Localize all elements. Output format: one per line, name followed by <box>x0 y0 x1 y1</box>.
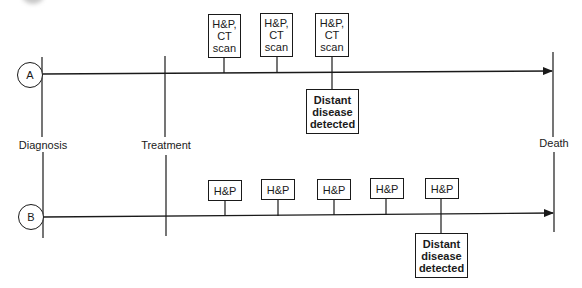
event-box-a: Distantdiseasedetected <box>306 89 359 134</box>
timeline-a-label: A <box>26 69 33 81</box>
box-line: H&P, <box>264 17 288 29</box>
followup-box-b5: H&P <box>425 178 459 199</box>
box-line: H&P <box>323 184 346 196</box>
followup-box-b4: H&P <box>370 178 404 199</box>
followup-box-b3: H&P <box>317 179 351 200</box>
box-line: CT <box>325 29 340 41</box>
event-box-b: Distantdiseasedetected <box>415 233 468 278</box>
timeline-b-label: B <box>27 211 34 223</box>
box-line: scan <box>265 41 288 53</box>
followup-box-a3: H&P,CTscan <box>315 13 349 57</box>
box-line: H&P <box>214 185 237 197</box>
box-line: CT <box>269 29 284 41</box>
followup-box-b1: H&P <box>208 180 242 201</box>
box-line: H&P, <box>320 17 344 29</box>
box-line: scan <box>213 42 236 54</box>
box-line: detected <box>419 262 464 274</box>
box-line: Distant <box>423 238 460 250</box>
box-line: H&P <box>431 183 454 195</box>
box-line: detected <box>310 118 355 130</box>
box-line: Distant <box>314 94 351 106</box>
box-line: disease <box>421 250 461 262</box>
box-line: CT <box>217 30 232 42</box>
milestone-diagnosis: Diagnosis <box>19 139 67 151</box>
box-line: scan <box>320 41 343 53</box>
box-line: H&P <box>267 184 290 196</box>
milestone-treatment: Treatment <box>141 139 191 151</box>
milestone-death: Death <box>539 137 568 149</box>
box-line: disease <box>312 106 352 118</box>
followup-box-b2: H&P <box>261 179 295 200</box>
followup-box-a1: H&P,CTscan <box>208 14 241 58</box>
followup-box-a2: H&P,CTscan <box>260 13 293 57</box>
box-line: H&P <box>376 183 399 195</box>
timeline-a-marker: A <box>17 62 43 88</box>
box-line: H&P, <box>212 18 236 30</box>
timeline-b-marker: B <box>18 204 44 230</box>
